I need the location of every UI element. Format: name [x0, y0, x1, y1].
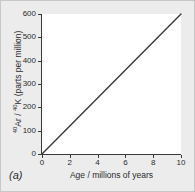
y-tick-mark [38, 154, 41, 155]
y-tick-mark [38, 61, 41, 62]
y-tick-mark [38, 131, 41, 132]
y-tick-mark [38, 14, 41, 15]
x-axis-label: Age / millions of years [42, 170, 181, 180]
y-axis-label-sup-numerator: 40 [13, 127, 23, 134]
y-axis-label: 40Ar / 40K (parts per million) [13, 7, 23, 157]
x-tick-label: 4 [88, 159, 108, 167]
y-axis-line [41, 14, 42, 155]
panel-label: (a) [9, 169, 22, 181]
y-axis-label-units: (parts per million) [13, 31, 23, 99]
y-tick-mark [38, 84, 41, 85]
y-axis-label-numerator: Ar [13, 118, 23, 127]
y-tick-mark [38, 107, 41, 108]
y-axis-label-sup-denominator: 40 [13, 104, 23, 111]
x-tick-label: 0 [32, 159, 52, 167]
x-tick-label: 6 [115, 159, 135, 167]
y-axis-label-denominator: K [13, 99, 23, 105]
x-tick-label: 2 [60, 159, 80, 167]
figure-panel: 0100200300400500600 0246810 Age / millio… [0, 0, 195, 192]
plot-area [42, 14, 181, 154]
x-axis-line [41, 154, 181, 155]
y-axis-label-separator: / [13, 111, 23, 118]
x-tick-label: 8 [143, 159, 163, 167]
x-tick-label: 10 [171, 159, 191, 167]
y-tick-mark [38, 37, 41, 38]
